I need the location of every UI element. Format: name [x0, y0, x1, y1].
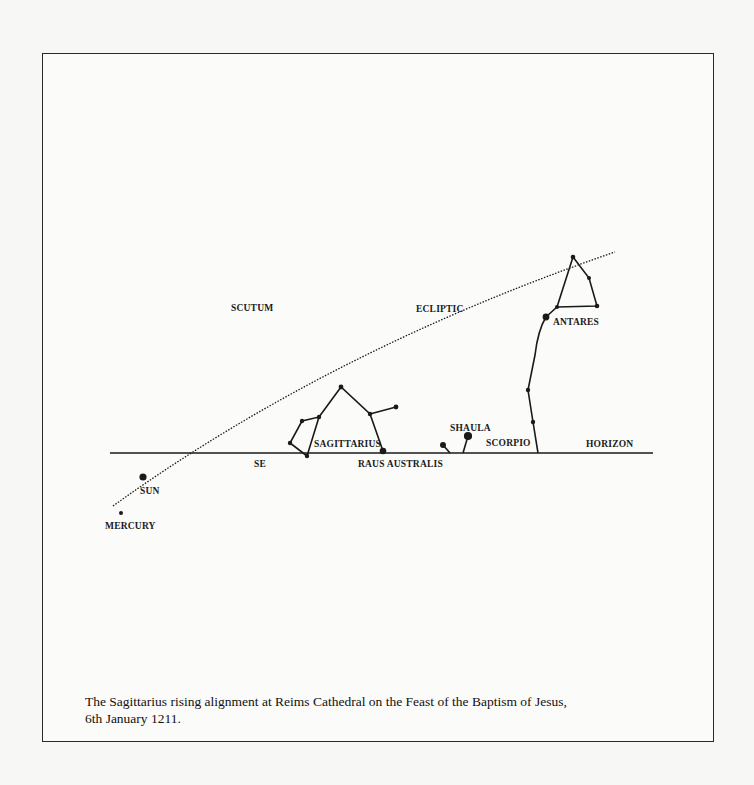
caption-line-2: 6th January 1211.	[85, 710, 685, 727]
scorpio-label: SCORPIO	[486, 438, 531, 448]
se-label: SE	[254, 459, 266, 469]
antares-star	[543, 314, 550, 321]
horizon-label: HORIZON	[586, 439, 633, 449]
scorpio-constellation	[528, 257, 597, 453]
sky-diagram: SCUTUM ECLIPTIC ANTARES SAGITTARIUS SHAU…	[0, 0, 754, 785]
caption-line-1: The Sagittarius rising alignment at Reim…	[85, 693, 685, 710]
sun-marker	[139, 473, 146, 480]
sagittarius-label: SAGITTARIUS	[314, 439, 381, 449]
sun-label: SUN	[140, 486, 160, 496]
figure-caption: The Sagittarius rising alignment at Reim…	[85, 693, 685, 727]
raus-australis-label: RAUS AUSTRALIS	[358, 459, 443, 469]
ecliptic-label: ECLIPTIC	[416, 304, 464, 314]
shaula-label: SHAULA	[450, 423, 491, 433]
mercury-label: MERCURY	[105, 521, 156, 531]
shaula-stars	[441, 433, 472, 453]
mercury-marker	[119, 511, 123, 515]
scutum-label: SCUTUM	[231, 303, 273, 313]
antares-label: ANTARES	[553, 317, 599, 327]
